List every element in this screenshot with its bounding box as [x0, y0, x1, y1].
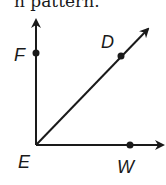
point-D-dot — [118, 53, 125, 60]
label-W: W — [117, 157, 136, 177]
point-F-dot — [33, 50, 40, 57]
angle-diagram: F D E W — [0, 0, 166, 185]
label-E: E — [18, 152, 31, 172]
ray-ED — [36, 29, 148, 145]
label-F: F — [14, 45, 26, 65]
point-W-dot — [127, 142, 134, 149]
label-D: D — [101, 32, 114, 52]
